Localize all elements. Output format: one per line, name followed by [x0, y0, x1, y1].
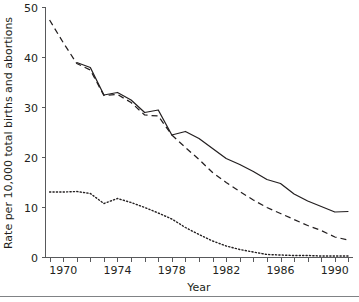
x-tick-label-1970: 1970	[49, 264, 77, 277]
x-tick-label-1986: 1986	[267, 264, 295, 277]
y-tick-label-40: 40	[24, 52, 38, 65]
series-line-solid	[77, 63, 349, 213]
series-group	[50, 20, 349, 256]
y-tick-label-10: 10	[24, 202, 38, 215]
x-tick-label-1974: 1974	[103, 264, 131, 277]
x-axis-ticks	[51, 258, 349, 262]
line-chart-svg: Rate per 10,000 total births and abortio…	[0, 0, 359, 302]
y-axis-ticks: 50 40 30 20 10 0	[24, 2, 46, 265]
x-tick-label-1978: 1978	[158, 264, 186, 277]
y-tick-label-0: 0	[31, 252, 38, 265]
series-line-dashed	[50, 20, 349, 240]
x-axis-title-text: Year	[186, 281, 211, 294]
y-tick-label-20: 20	[24, 152, 38, 165]
y-tick-label-50: 50	[24, 2, 38, 15]
x-tick-label-1982: 1982	[212, 264, 240, 277]
chart-figure: Rate per 10,000 total births and abortio…	[0, 0, 359, 302]
y-tick-label-30: 30	[24, 102, 38, 115]
x-axis-tick-labels: 197019741978198219861990	[49, 264, 349, 277]
y-axis-title-text: Rate per 10,000 total births and abortio…	[2, 17, 15, 249]
y-axis-title: Rate per 10,000 total births and abortio…	[2, 17, 15, 249]
x-tick-label-1990: 1990	[321, 264, 349, 277]
